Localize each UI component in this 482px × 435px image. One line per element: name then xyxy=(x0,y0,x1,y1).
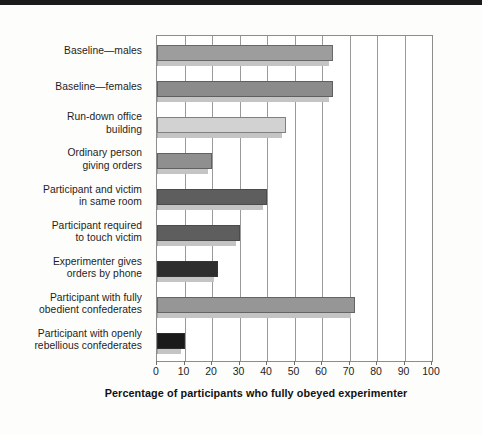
bar-shadow xyxy=(157,133,282,138)
x-tick-label-10: 10 xyxy=(178,365,190,377)
bar-shadow xyxy=(157,277,214,282)
category-label-line: Baseline—females xyxy=(0,81,142,93)
bar-shadow xyxy=(157,205,263,210)
category-label-line: Ordinary person xyxy=(0,147,142,159)
chart-figure: Baseline—malesBaseline—femalesRun-down o… xyxy=(0,0,482,435)
bar-shadow xyxy=(157,241,236,246)
x-axis-tick-labels: 0102030405060708090100 xyxy=(156,365,433,383)
x-tick-mark-10 xyxy=(184,361,185,365)
category-label-line: Participant with openly xyxy=(0,328,142,340)
category-label: Participant requiredto touch victim xyxy=(0,220,142,245)
x-tick-mark-20 xyxy=(211,361,212,365)
category-label-line: Run-down office xyxy=(0,111,142,123)
x-tick-label-0: 0 xyxy=(153,365,159,377)
bar xyxy=(157,225,240,241)
bar xyxy=(157,261,218,277)
bar-series xyxy=(157,36,432,361)
category-label: Experimenter givesorders by phone xyxy=(0,256,142,281)
x-tick-mark-50 xyxy=(294,361,295,365)
category-label-line: rebellious confederates xyxy=(0,340,142,352)
category-label: Run-down officebuilding xyxy=(0,111,142,136)
category-label-line: to touch victim xyxy=(0,232,142,244)
x-tick-mark-70 xyxy=(349,361,350,365)
bar xyxy=(157,117,286,133)
x-tick-mark-40 xyxy=(266,361,267,365)
x-tick-mark-0 xyxy=(156,361,157,365)
x-tick-mark-60 xyxy=(321,361,322,365)
x-tick-label-40: 40 xyxy=(260,365,272,377)
category-axis-labels: Baseline—malesBaseline—femalesRun-down o… xyxy=(0,35,150,362)
category-label: Baseline—males xyxy=(0,45,142,57)
bar-shadow xyxy=(157,97,329,102)
chart-canvas: Baseline—malesBaseline—femalesRun-down o… xyxy=(0,5,482,435)
category-label: Participant and victimin same room xyxy=(0,184,142,209)
category-label: Participant with openlyrebellious confed… xyxy=(0,328,142,353)
category-label: Baseline—females xyxy=(0,81,142,93)
bar xyxy=(157,153,212,169)
bar xyxy=(157,333,185,349)
x-tick-mark-90 xyxy=(404,361,405,365)
plot-wrapper: Baseline—malesBaseline—femalesRun-down o… xyxy=(0,5,482,435)
bar-shadow xyxy=(157,313,351,318)
bar xyxy=(157,297,355,313)
x-tick-label-80: 80 xyxy=(370,365,382,377)
plot-area xyxy=(156,35,433,362)
category-label-line: Participant required xyxy=(0,220,142,232)
bar xyxy=(157,45,333,61)
category-label-line: Baseline—males xyxy=(0,45,142,57)
x-tick-label-50: 50 xyxy=(288,365,300,377)
bar-shadow xyxy=(157,169,208,174)
category-label-line: in same room xyxy=(0,196,142,208)
x-tick-label-90: 90 xyxy=(398,365,410,377)
category-label-line: Participant with fully xyxy=(0,292,142,304)
category-label-line: obedient confederates xyxy=(0,304,142,316)
category-label-line: building xyxy=(0,124,142,136)
category-label-line: giving orders xyxy=(0,160,142,172)
x-tick-label-30: 30 xyxy=(233,365,245,377)
bar xyxy=(157,189,267,205)
category-label: Participant with fullyobedient confedera… xyxy=(0,292,142,317)
category-label-line: Participant and victim xyxy=(0,184,142,196)
x-tick-label-70: 70 xyxy=(343,365,355,377)
bar-shadow xyxy=(157,61,329,66)
bar-shadow xyxy=(157,349,181,354)
category-label-line: orders by phone xyxy=(0,268,142,280)
category-label: Ordinary persongiving orders xyxy=(0,147,142,172)
x-tick-label-100: 100 xyxy=(422,365,440,377)
x-tick-mark-30 xyxy=(239,361,240,365)
x-tick-label-20: 20 xyxy=(205,365,217,377)
x-tick-label-60: 60 xyxy=(315,365,327,377)
x-axis-title: Percentage of participants who fully obe… xyxy=(56,387,456,399)
bar xyxy=(157,81,333,97)
x-tick-mark-100 xyxy=(431,361,432,365)
category-label-line: Experimenter gives xyxy=(0,256,142,268)
x-tick-mark-80 xyxy=(376,361,377,365)
